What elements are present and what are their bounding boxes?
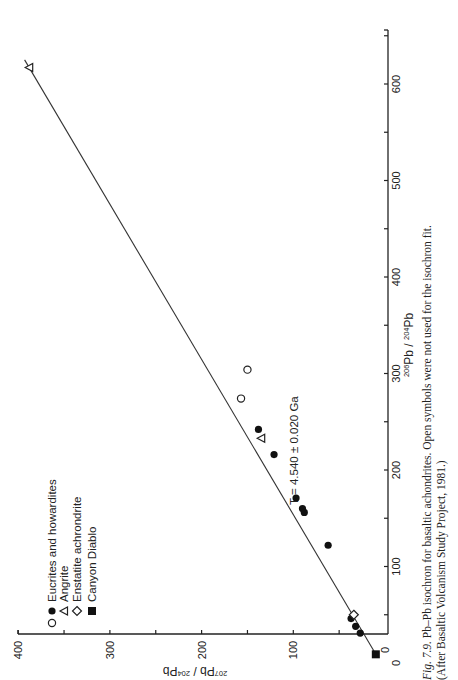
legend-label: Angrite: [58, 566, 70, 602]
x-axis-label: 206Pb / 204Pb: [402, 313, 417, 378]
filled-circle-marker: [270, 451, 277, 458]
filled-circle-marker: [48, 607, 55, 614]
legend-label: Enstatite achrondrite: [71, 497, 83, 602]
caption-source: (After Basaltic Volcanism Study Project,…: [434, 160, 448, 680]
legend: Eucrites and howarditesAngriteEnstatite …: [46, 479, 98, 627]
y-tick-label: 300: [104, 641, 116, 659]
y-axis-label: 207Pb / 204Pb: [162, 664, 227, 679]
y-tick-label: 100: [287, 641, 299, 659]
open-circle-marker: [237, 395, 244, 402]
x-tick-label: 100: [390, 557, 402, 575]
axis-labels: 206Pb / 204Pb207Pb / 204PbT = 4.540 ± 0.…: [162, 313, 416, 679]
x-tick-label: 300: [390, 364, 402, 382]
y-tick-label: 200: [196, 641, 208, 659]
open-circle-marker: [244, 366, 251, 373]
isochron-chart: 01002003004005006000100200300400 Eucrite…: [0, 0, 458, 680]
open-triangle-marker: [257, 434, 265, 442]
age-annotation: T = 4.540 ± 0.020 Ga: [288, 396, 300, 505]
legend-label: Canyon Diablo: [86, 527, 98, 602]
open-diamond-marker: [73, 607, 82, 616]
filled-circle-marker: [357, 629, 364, 636]
filled-circle-marker: [299, 505, 306, 512]
caption-label: Fig. 7.9.: [421, 641, 433, 680]
caption-text: Pb–Pb isochron for basaltic achondrites.…: [421, 225, 433, 638]
open-triangle-marker: [60, 607, 68, 615]
filled-circle-marker: [352, 623, 359, 630]
y-tick-label: 0: [379, 647, 391, 653]
open-triangle-marker: [25, 64, 32, 72]
x-tick-label: 200: [390, 461, 402, 479]
x-tick-label: 0: [390, 660, 402, 666]
filled-circle-marker: [255, 426, 262, 433]
filled-square-marker: [88, 607, 96, 615]
legend-label: Eucrites and howardites: [46, 479, 58, 602]
x-tick-label: 600: [390, 75, 402, 93]
filled-circle-marker: [325, 542, 332, 549]
x-tick-label: 500: [390, 171, 402, 189]
y-tick-label: 400: [12, 641, 24, 659]
x-tick-label: 400: [390, 268, 402, 286]
figure-caption: Fig. 7.9. Pb–Pb isochron for basaltic ac…: [420, 160, 448, 680]
open-circle-marker: [48, 619, 55, 626]
filled-square-marker: [372, 650, 380, 658]
